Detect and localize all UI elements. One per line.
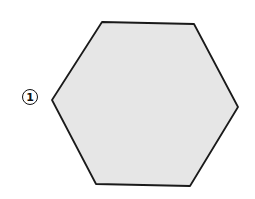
shape-number-label: 1	[22, 89, 38, 105]
hexagon-shape	[52, 22, 238, 186]
diagram-canvas	[0, 0, 255, 199]
shape-number-text: 1	[26, 92, 34, 103]
hexagon-figure	[0, 0, 255, 199]
